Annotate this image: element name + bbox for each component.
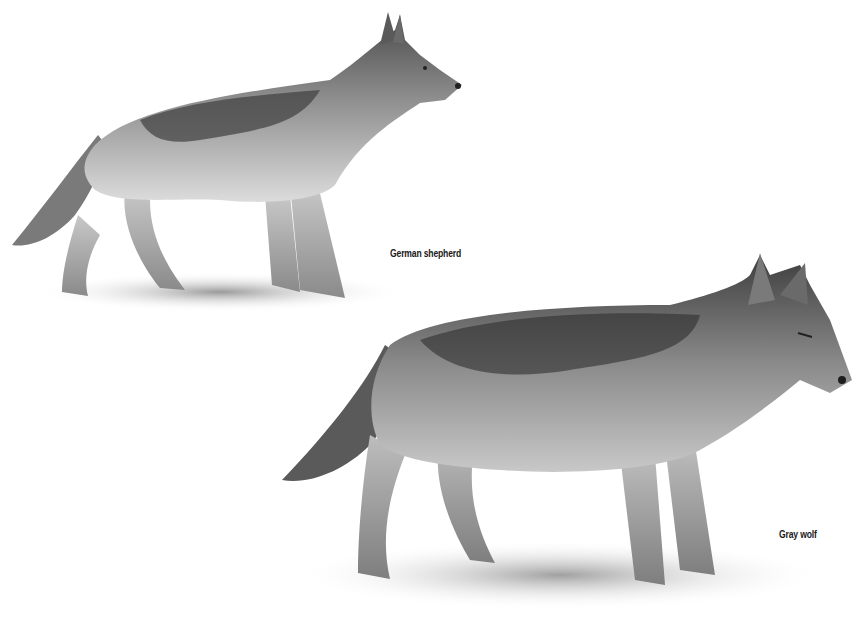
gray-wolf-label: Gray wolf bbox=[779, 528, 817, 540]
gray-wolf-illustration bbox=[270, 245, 862, 620]
gray-wolf-drawing bbox=[270, 245, 862, 620]
